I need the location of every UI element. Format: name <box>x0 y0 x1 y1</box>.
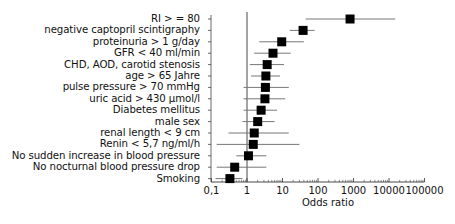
odds-ratio-marker <box>260 94 269 103</box>
x-tick-label: 100000 <box>405 185 443 196</box>
odds-ratio-marker <box>263 60 272 69</box>
x-tick-label: 10 <box>276 185 289 196</box>
odds-ratio-marker <box>249 140 258 149</box>
x-tick-label: 1 <box>244 185 250 196</box>
odds-ratio-marker <box>250 129 259 138</box>
odds-ratio-marker <box>261 72 270 81</box>
x-axis-label: Odds ratio <box>302 197 354 208</box>
odds-ratio-marker <box>277 37 286 46</box>
odds-ratio-marker <box>230 163 239 172</box>
odds-ratio-marker <box>257 106 266 115</box>
odds-ratio-marker <box>346 15 355 24</box>
odds-ratio-marker <box>244 151 253 160</box>
x-tick-label: 0,1 <box>204 185 220 196</box>
x-tick-label: 1000 <box>341 185 366 196</box>
odds-ratio-marker <box>261 83 270 92</box>
odds-ratio-marker <box>225 174 234 183</box>
odds-ratio-marker <box>299 26 308 35</box>
forest-plot: RI > = 80negative captopril scintigraphy… <box>0 0 455 224</box>
x-tick-label: 10000 <box>373 185 405 196</box>
odds-ratio-marker <box>268 49 277 58</box>
odds-ratio-marker <box>253 117 262 126</box>
x-tick-label: 100 <box>308 185 327 196</box>
